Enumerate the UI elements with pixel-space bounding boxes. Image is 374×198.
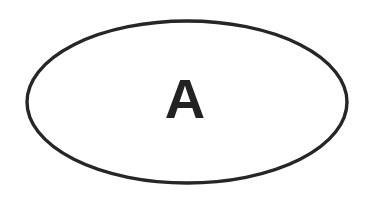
oval-diagram: A [0,0,374,198]
oval-label-text: A [165,67,205,130]
diagram-canvas: A [0,0,374,198]
